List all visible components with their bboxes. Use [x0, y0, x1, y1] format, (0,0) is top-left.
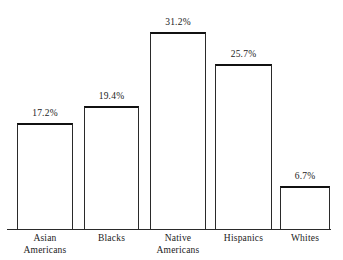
category-label-asian-americans: Asian Americans — [5, 232, 85, 256]
bar-blacks — [84, 106, 139, 230]
bar-whites — [280, 186, 330, 230]
category-label-line: Americans — [138, 244, 218, 256]
bar-value-label: 25.7% — [207, 49, 280, 60]
bar-chart: 17.2% Asian Americans 19.4% Blacks 31.2%… — [0, 0, 343, 260]
category-label-blacks: Blacks — [76, 232, 147, 244]
category-label-line: Blacks — [76, 232, 147, 244]
category-label-line: Asian — [5, 232, 85, 244]
category-label-whites: Whites — [280, 232, 330, 244]
category-label-line: Native — [138, 232, 218, 244]
bar-value-label: 31.2% — [142, 17, 214, 28]
bar-hispanics — [215, 64, 272, 230]
category-label-line: Americans — [5, 244, 85, 256]
plot-area: 17.2% Asian Americans 19.4% Blacks 31.2%… — [0, 0, 343, 260]
bar-native-americans — [150, 32, 206, 230]
bar-value-label: 17.2% — [9, 108, 81, 119]
category-label-hispanics: Hispanics — [207, 232, 280, 244]
bar-value-label: 6.7% — [280, 171, 330, 182]
bar-asian-americans — [17, 123, 73, 230]
category-label-line: Whites — [280, 232, 330, 244]
category-label-line: Hispanics — [207, 232, 280, 244]
bar-value-label: 19.4% — [76, 91, 147, 102]
category-label-native-americans: Native Americans — [138, 232, 218, 256]
x-axis-baseline — [7, 229, 331, 230]
